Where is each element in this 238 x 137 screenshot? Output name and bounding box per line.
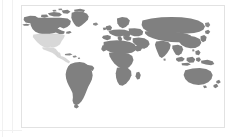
region-greenland[interactable] <box>71 11 88 27</box>
region-south-america[interactable] <box>66 62 93 105</box>
region-arctic-islands-b[interactable] <box>62 10 71 14</box>
region-arctic-speck-a <box>52 10 56 12</box>
region-scandinavia[interactable] <box>117 17 130 28</box>
region-arctic-islands-a[interactable] <box>48 12 62 16</box>
region-aleutians[interactable] <box>22 24 30 26</box>
page-divider-bottom <box>0 130 22 131</box>
region-sri-lanka <box>163 58 165 60</box>
region-caribbean-hispaniola[interactable] <box>73 56 77 58</box>
region-sumatra[interactable] <box>176 57 185 62</box>
region-western-europe[interactable] <box>108 29 131 36</box>
page-divider-outer <box>2 0 3 137</box>
region-british-isles[interactable] <box>106 25 112 30</box>
region-tasmania[interactable] <box>203 85 207 88</box>
region-west-africa[interactable] <box>101 45 107 52</box>
page-divider-inner <box>12 0 13 133</box>
region-iberia[interactable] <box>102 35 111 40</box>
region-new-zealand-north[interactable] <box>216 80 220 84</box>
world-map-card[interactable] <box>21 5 225 128</box>
region-central-africa[interactable] <box>109 52 134 69</box>
region-united-states[interactable] <box>33 34 65 48</box>
region-north-africa[interactable] <box>104 40 137 53</box>
region-arctic-speck-b <box>58 9 62 11</box>
world-map-svg[interactable] <box>22 6 224 127</box>
region-new-zealand-south[interactable] <box>213 84 218 88</box>
region-arctic-islands-c[interactable] <box>41 14 49 17</box>
region-india[interactable] <box>155 41 171 58</box>
region-southern-africa[interactable] <box>116 67 132 86</box>
region-east-asia[interactable] <box>179 35 201 48</box>
region-madagascar[interactable] <box>136 72 141 80</box>
region-newfoundland[interactable] <box>66 31 72 34</box>
region-balkans[interactable] <box>123 36 131 41</box>
region-japan-north[interactable] <box>205 30 210 34</box>
region-korea-japan[interactable] <box>201 35 207 42</box>
region-south-america-tip[interactable] <box>74 105 79 109</box>
region-philippines[interactable] <box>195 50 200 55</box>
region-australia[interactable] <box>184 68 213 85</box>
region-iceland[interactable] <box>93 23 98 26</box>
region-sulawesi[interactable] <box>196 57 201 62</box>
region-kamchatka[interactable] <box>205 22 210 27</box>
region-java[interactable] <box>182 63 191 66</box>
screen-root <box>0 0 238 137</box>
region-taiwan <box>192 49 194 51</box>
region-central-america[interactable] <box>60 56 71 63</box>
region-new-guinea[interactable] <box>201 60 214 66</box>
region-southeast-asia-mainland[interactable] <box>172 45 183 56</box>
region-caribbean-cuba[interactable] <box>65 53 73 55</box>
region-eastern-europe[interactable] <box>129 28 144 36</box>
region-borneo[interactable] <box>186 57 195 63</box>
region-caribbean-antilles <box>78 57 80 59</box>
region-canada[interactable] <box>30 18 71 35</box>
